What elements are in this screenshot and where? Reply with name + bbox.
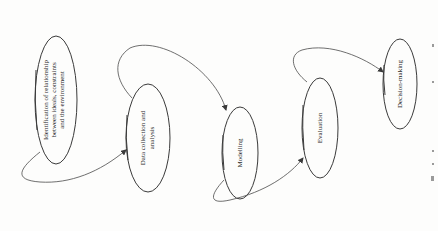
node-data-collection: Data collection and analysis [126, 84, 170, 192]
node-evaluation-label: Evaluation [316, 112, 324, 143]
edge-evaluation-to-decision [293, 48, 383, 82]
node-identification: Identification of relationship between i… [35, 36, 77, 164]
node-data-collection-line-2: analysis [148, 126, 156, 149]
edge-data-to-modelling [118, 45, 226, 110]
cropped-margin-text [431, 44, 434, 181]
node-modelling: Modelling [222, 107, 258, 199]
node-evaluation: Evaluation [302, 78, 338, 178]
edge-modelling-to-evaluation [213, 158, 303, 201]
node-decision-making: Decision-making [383, 39, 417, 129]
node-data-collection-line-1: Data collection and [139, 110, 147, 165]
edge-identification-to-data [22, 150, 126, 182]
flowchart-svg: Identification of relationship between i… [0, 0, 438, 231]
node-identification-line-1: Identification of relationship [42, 59, 50, 140]
node-decision-making-label: Decision-making [396, 59, 404, 108]
node-identification-line-3: and the environment [58, 71, 66, 129]
node-modelling-label: Modelling [236, 138, 244, 168]
diagram-canvas: Identification of relationship between i… [0, 0, 438, 231]
node-identification-line-2: between ideals, constraints [50, 62, 58, 138]
